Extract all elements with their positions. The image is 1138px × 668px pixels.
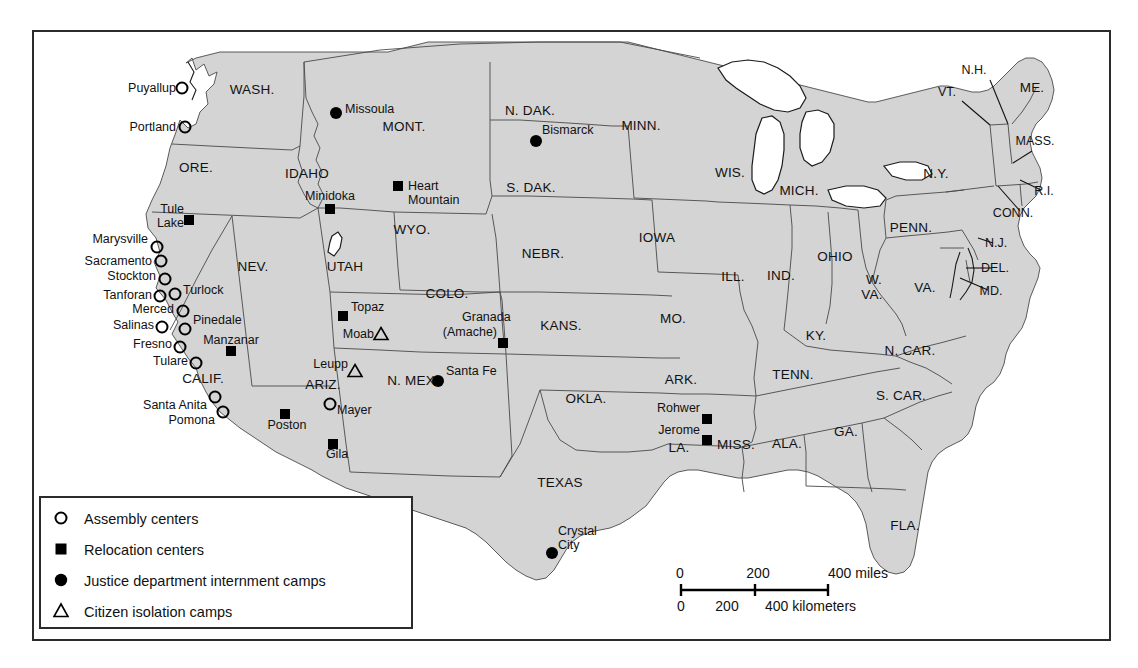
site-label-tulare: Tulare: [153, 354, 188, 368]
state-label-minn: MINN.: [621, 118, 660, 133]
relocation-center-marker-minidoka: [325, 204, 335, 214]
site-label-minidoka: Minidoka: [305, 189, 355, 203]
site-label-city: City: [558, 538, 580, 552]
state-label-conn: CONN.: [993, 206, 1033, 220]
state-label-okla: OKLA.: [566, 391, 607, 406]
scale-bar: 0 200 400 miles 0 200 400 kilometers: [676, 565, 888, 614]
state-label-la: LA.: [669, 440, 690, 455]
state-label-ind: IND.: [767, 268, 795, 283]
site-label-tule: Tule: [160, 202, 184, 216]
state-label-miss: MISS.: [717, 437, 755, 452]
state-label-ore: ORE.: [179, 160, 213, 175]
relocation-center-marker-manzanar: [226, 346, 236, 356]
site-label-santafe: Santa Fe: [446, 364, 497, 378]
state-label-ark: ARK.: [665, 372, 697, 387]
state-label-ariz: ARIZ.: [305, 377, 341, 392]
state-label-nh: N.H.: [962, 63, 987, 77]
site-label-gila: Gila: [326, 447, 348, 461]
state-label-ala: ALA.: [772, 436, 802, 451]
site-label-crystal: Crystal: [558, 524, 597, 538]
relocation-center-marker-jerome: [702, 435, 712, 445]
relocation-center-marker-rohwer: [702, 414, 712, 424]
state-label-ny: N.Y.: [923, 166, 948, 181]
legend-relocation-icon: [56, 544, 67, 555]
state-label-ri: R.I.: [1034, 184, 1053, 198]
state-label-tenn: TENN.: [772, 367, 814, 382]
site-label-jerome: Jerome: [658, 423, 700, 437]
state-label-w: W.: [866, 272, 882, 287]
state-label-ohio: OHIO: [817, 249, 852, 264]
state-label-fla: FLA.: [890, 518, 919, 533]
state-label-colo: COLO.: [425, 286, 468, 301]
site-label-pinedale: Pinedale: [193, 313, 242, 327]
state-label-ncar: N. CAR.: [885, 343, 936, 358]
relocation-center-marker-heart: [393, 181, 403, 191]
state-label-penn: PENN.: [890, 220, 932, 235]
assembly-center-marker-puyallup: [177, 83, 188, 94]
state-label-nmex: N. MEX.: [387, 373, 439, 388]
state-label-ga: GA.: [834, 424, 858, 439]
state-label-wash: WASH.: [230, 82, 275, 97]
state-label-va: VA.: [861, 287, 882, 302]
site-label-marysville: Marysville: [92, 232, 148, 246]
site-label-granada: Granada: [462, 310, 511, 324]
site-label-turlock: Turlock: [183, 283, 224, 297]
state-label-mo: MO.: [660, 311, 686, 326]
scale-km-tick-0: 0: [677, 598, 685, 614]
site-label-merced: Merced: [132, 302, 174, 316]
state-label-nebr: NEBR.: [522, 246, 564, 261]
state-label-calif: CALIF.: [182, 371, 224, 386]
site-label-mountain: Mountain: [408, 193, 459, 207]
site-label-amache: (Amache): [443, 325, 497, 339]
state-label-ky: KY.: [806, 328, 827, 343]
site-label-heart: Heart: [408, 179, 439, 193]
site-label-topaz: Topaz: [351, 300, 384, 314]
legend-justice-icon: [55, 574, 67, 586]
internment-map: WASH.ORE.IDAHOMONT.WYO.NEV.UTAHCOLO.N. D…: [0, 0, 1138, 668]
state-label-wyo: WYO.: [394, 222, 431, 237]
site-label-lake: Lake: [157, 216, 184, 230]
state-label-scar: S. CAR.: [876, 388, 926, 403]
state-label-nev: NEV.: [237, 259, 268, 274]
justice-camp-marker-santafe: [432, 375, 444, 387]
relocation-center-marker-topaz: [338, 311, 348, 321]
state-label-utah: UTAH: [327, 259, 364, 274]
site-label-moab: Moab: [343, 327, 374, 341]
site-label-tanforan: Tanforan: [103, 288, 152, 302]
justice-camp-marker-bismarck: [530, 135, 542, 147]
state-label-sdak: S. DAK.: [506, 180, 555, 195]
state-label-vt: VT.: [938, 85, 956, 99]
legend: Assembly centers Relocation centers Just…: [40, 497, 412, 628]
site-label-santaanita: Santa Anita: [143, 398, 207, 412]
site-label-pomona: Pomona: [168, 413, 215, 427]
site-label-salinas: Salinas: [113, 318, 154, 332]
site-label-missoula: Missoula: [345, 102, 394, 116]
state-label-md: MD.: [980, 284, 1003, 298]
state-label-kans: KANS.: [540, 318, 582, 333]
state-label-texas: TEXAS: [537, 475, 582, 490]
site-label-leupp: Leupp: [313, 357, 348, 371]
state-label-ndak: N. DAK.: [505, 103, 555, 118]
state-label-mich: MICH.: [779, 183, 818, 198]
scale-miles-tick-200: 200: [746, 565, 770, 581]
site-label-mayer: Mayer: [337, 403, 372, 417]
site-label-rohwer: Rohwer: [657, 401, 700, 415]
scale-km-tick-200: 200: [715, 598, 739, 614]
legend-label-justice: Justice department internment camps: [84, 573, 326, 589]
state-label-del: DEL.: [981, 261, 1009, 275]
justice-camp-marker-missoula: [330, 107, 342, 119]
site-label-puyallup: Puyallup: [128, 81, 176, 95]
state-label-nj: N.J.: [985, 236, 1007, 250]
legend-label-relocation: Relocation centers: [84, 542, 204, 558]
state-label-wis: WIS.: [715, 165, 745, 180]
state-label-mont: MONT.: [383, 119, 426, 134]
site-label-stockton: Stockton: [107, 269, 156, 283]
scale-miles-tick-0: 0: [676, 565, 684, 581]
legend-label-isolation: Citizen isolation camps: [84, 604, 232, 620]
site-label-poston: Poston: [268, 418, 307, 432]
state-label-mass: MASS.: [1016, 134, 1055, 148]
relocation-center-marker-amache: [498, 338, 508, 348]
relocation-center-marker-tule: [184, 215, 194, 225]
state-label-iowa: IOWA: [639, 230, 675, 245]
legend-label-assembly: Assembly centers: [84, 511, 198, 527]
